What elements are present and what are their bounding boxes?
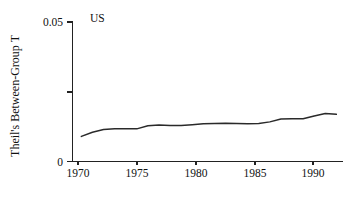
x-tick-label-1990: 1990: [302, 167, 325, 179]
line-chart: Theil's Between-Group T 0.05 0 1970 1975…: [0, 0, 359, 200]
y-tick-label-top: 0.05: [43, 16, 63, 28]
x-tick-label-1980: 1980: [185, 167, 208, 179]
y-tick-label-bottom: 0: [57, 156, 63, 168]
x-tick-label-1985: 1985: [244, 167, 267, 179]
chart-figure: Theil's Between-Group T 0.05 0 1970 1975…: [0, 0, 359, 200]
x-tick-label-1970: 1970: [67, 167, 90, 179]
data-line-us: [81, 114, 336, 137]
panel-label-us: US: [90, 12, 105, 24]
x-tick-label-1975: 1975: [126, 167, 149, 179]
y-axis-title: Theil's Between-Group T: [8, 34, 22, 157]
